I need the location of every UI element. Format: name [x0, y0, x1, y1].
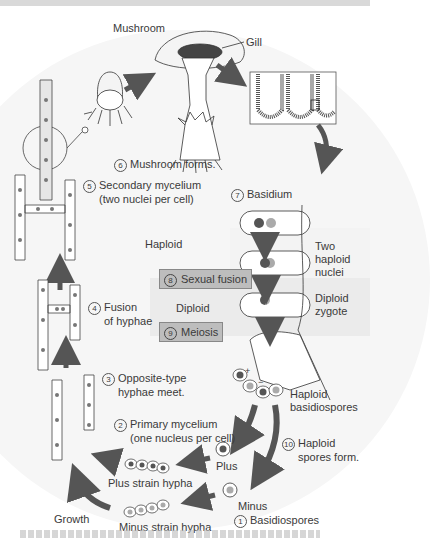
step-5-label: 5Secondary mycelium (two nuclei per cell… — [83, 179, 201, 206]
step-number: 9 — [164, 327, 177, 340]
step-number: 4 — [88, 302, 101, 315]
step-6-label: 6Mushroom forms. — [114, 158, 216, 172]
secondary-mycelium-icon — [15, 80, 88, 260]
arrow-icon — [195, 495, 215, 500]
step-number: 2 — [114, 419, 127, 432]
arrow-icon — [240, 405, 255, 440]
step-10-label: 10Haploid spores form. — [282, 437, 359, 464]
arrow-icon — [217, 65, 235, 78]
gill-closeup-icon — [250, 72, 336, 124]
opposite-hyphae-icon — [52, 375, 94, 460]
step-4-label: 4Fusion of hyphae — [88, 301, 152, 328]
plus-label: Plus — [216, 460, 237, 473]
step-number: 1 — [234, 515, 247, 528]
step-3-label: 3Opposite-type hyphae meet. — [102, 372, 186, 399]
step-number: 8 — [164, 274, 177, 287]
step-9-box: 9Meiosis — [159, 322, 223, 342]
arrow-icon — [125, 80, 143, 90]
growth-label: Growth — [54, 513, 89, 526]
haploid-label: Haploid — [145, 238, 182, 251]
arrow-icon — [260, 405, 277, 475]
minus-sign: − — [258, 376, 263, 389]
cropped-caption — [20, 530, 320, 538]
minus-strain-hypha-icon — [124, 500, 169, 517]
step-number: 6 — [114, 159, 127, 172]
plus-sign: + — [245, 365, 250, 378]
gill-label: Gill — [246, 36, 262, 49]
step-number: 10 — [282, 438, 295, 451]
arrow-icon — [190, 458, 210, 462]
step-8-box: 8Sexual fusion — [159, 269, 252, 289]
step-number: 5 — [83, 180, 96, 193]
arrow-icon — [318, 125, 326, 160]
two-haploid-nuclei-label: Two haploid nuclei — [315, 240, 350, 279]
haploid-basidiospores-label: Haploid basidiospores — [290, 388, 358, 414]
diploid-label: Diploid — [176, 302, 210, 315]
step-number: 7 — [231, 189, 244, 202]
arrow-icon — [78, 480, 110, 508]
step-1-label: 1Basidiospores — [234, 514, 319, 528]
arrow-icon — [105, 458, 118, 462]
young-mushroom-icon — [84, 72, 132, 126]
diploid-zygote-label: Diploid zygote — [315, 292, 349, 318]
step-2-label: 2Primary mycelium (one nucleus per cell) — [114, 418, 235, 445]
step-number: 3 — [102, 373, 115, 386]
step-7-label: 7Basidium — [231, 188, 292, 202]
mushroom-icon — [155, 31, 244, 173]
plus-strain-label: Plus strain hypha — [108, 477, 192, 490]
mushroom-label: Mushroom — [113, 22, 165, 35]
minus-label: Minus — [238, 500, 267, 513]
